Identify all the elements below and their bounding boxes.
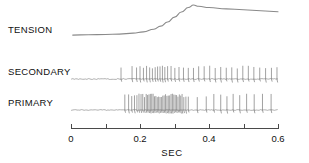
secondary-spike bbox=[137, 68, 138, 82]
primary-spike bbox=[134, 96, 135, 113]
secondary-spike bbox=[147, 66, 148, 82]
secondary-spike bbox=[221, 67, 222, 82]
secondary-spike bbox=[162, 66, 163, 82]
secondary-spike bbox=[188, 68, 189, 81]
primary-trace bbox=[72, 94, 278, 113]
primary-spike bbox=[129, 95, 130, 113]
primary-spike bbox=[168, 96, 169, 113]
secondary-spike bbox=[271, 68, 272, 81]
primary-spike bbox=[186, 97, 187, 113]
secondary-spike bbox=[243, 66, 244, 82]
primary-spike bbox=[157, 98, 158, 113]
primary-spike bbox=[181, 96, 182, 113]
primary-spike bbox=[159, 97, 160, 113]
secondary-spike bbox=[215, 68, 216, 82]
primary-spike bbox=[214, 94, 215, 112]
axis-tick-label: 0 bbox=[68, 133, 73, 144]
primary-spike bbox=[139, 94, 140, 112]
primary-spike bbox=[167, 96, 168, 112]
secondary-spike bbox=[266, 69, 267, 83]
tension-trace bbox=[73, 5, 278, 35]
primary-spike bbox=[184, 97, 185, 112]
secondary-baseline bbox=[72, 79, 278, 80]
secondary-spike bbox=[232, 68, 233, 82]
secondary-spike bbox=[152, 69, 153, 82]
secondary-spike bbox=[132, 66, 133, 81]
secondary-spike bbox=[254, 67, 255, 81]
primary-spike bbox=[233, 94, 234, 112]
plot-canvas: TENSIONSECONDARYPRIMARY00.20.40.6SEC bbox=[0, 0, 309, 163]
primary-spike bbox=[247, 94, 248, 112]
row-label-tension: TENSION bbox=[8, 24, 52, 35]
primary-spike bbox=[172, 94, 173, 113]
time-axis bbox=[72, 124, 279, 129]
primary-spike bbox=[178, 97, 179, 112]
primary-spike bbox=[227, 97, 228, 114]
primary-spike bbox=[148, 95, 149, 112]
primary-spike bbox=[179, 95, 180, 112]
axis-tick-label: 0.4 bbox=[202, 133, 215, 144]
spike-train-figure: TENSIONSECONDARYPRIMARY00.20.40.6SEC bbox=[0, 0, 309, 163]
secondary-spike bbox=[155, 68, 156, 82]
row-label-primary: PRIMARY bbox=[8, 97, 54, 108]
axis-tick-label: 0.2 bbox=[133, 133, 146, 144]
secondary-spike bbox=[150, 68, 151, 82]
primary-spike bbox=[143, 94, 144, 112]
secondary-spike bbox=[193, 68, 194, 81]
secondary-spike bbox=[183, 68, 184, 81]
secondary-spike bbox=[165, 67, 166, 81]
row-label-secondary: SECONDARY bbox=[8, 66, 71, 77]
secondary-spike bbox=[237, 69, 238, 82]
secondary-trace bbox=[72, 66, 278, 82]
axis-title: SEC bbox=[161, 147, 182, 158]
secondary-spike bbox=[175, 68, 176, 81]
primary-spike bbox=[137, 96, 138, 112]
secondary-spike bbox=[277, 68, 278, 82]
axis-tick-label: 0.6 bbox=[271, 133, 284, 144]
secondary-spike bbox=[140, 67, 141, 83]
